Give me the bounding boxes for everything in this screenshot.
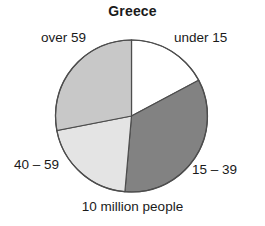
pie-label-15-39: 15 – 39	[192, 162, 237, 177]
pie-slices	[56, 40, 208, 192]
pie-label-under-15: under 15	[174, 30, 227, 45]
pie-label-over-59: over 59	[41, 30, 86, 45]
chart-caption: 10 million people	[0, 199, 265, 214]
pie-label-40-59: 40 – 59	[14, 157, 59, 172]
pie-chart-figure: Greece under 15 15 – 39 40 – 59 over 59 …	[0, 0, 265, 226]
pie-slice-over-59	[56, 40, 132, 131]
